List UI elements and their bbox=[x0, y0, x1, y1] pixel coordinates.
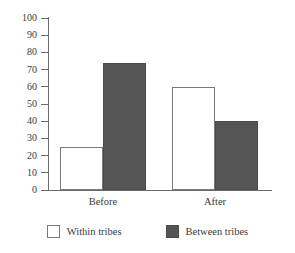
chart-legend: Within tribesBetween tribes bbox=[0, 225, 295, 238]
y-axis-tick bbox=[41, 121, 48, 122]
y-axis-tick-label: 30 bbox=[27, 133, 37, 143]
bar-chart: 0102030405060708090100 BeforeAfter Withi… bbox=[0, 0, 295, 253]
bar-after-between-tribes bbox=[215, 121, 258, 190]
y-axis-tick-label: 10 bbox=[27, 168, 37, 178]
y-axis-tick-label: 90 bbox=[27, 30, 37, 40]
bar-after-within-tribes bbox=[172, 87, 215, 190]
legend-item-between-tribes[interactable]: Between tribes bbox=[166, 225, 249, 238]
y-axis-tick bbox=[41, 104, 48, 105]
y-axis-tick bbox=[41, 52, 48, 53]
legend-label: Within tribes bbox=[67, 226, 122, 238]
y-axis-tick-label: 80 bbox=[27, 47, 37, 57]
x-axis-label-after: After bbox=[175, 196, 255, 208]
y-axis-tick bbox=[41, 86, 48, 87]
y-axis-tick-label: 40 bbox=[27, 116, 37, 126]
y-axis-tick-label: 50 bbox=[27, 99, 37, 109]
y-axis-tick bbox=[41, 190, 48, 191]
y-axis-tick-label: 0 bbox=[32, 185, 37, 195]
legend-label: Between tribes bbox=[186, 226, 249, 238]
bar-before-between-tribes bbox=[103, 63, 146, 190]
y-axis-tick bbox=[41, 172, 48, 173]
y-axis-tick bbox=[41, 35, 48, 36]
y-axis-tick-label: 70 bbox=[27, 65, 37, 75]
y-axis-tick bbox=[41, 18, 48, 19]
plot-area bbox=[48, 18, 272, 190]
y-axis-tick-label: 20 bbox=[27, 151, 37, 161]
legend-swatch-light bbox=[47, 225, 60, 238]
y-axis-tick bbox=[41, 69, 48, 70]
y-axis-tick-label: 60 bbox=[27, 82, 37, 92]
y-axis-tick bbox=[41, 138, 48, 139]
legend-item-within-tribes[interactable]: Within tribes bbox=[47, 225, 122, 238]
x-axis-label-before: Before bbox=[63, 196, 143, 208]
y-axis-tick-label: 100 bbox=[22, 13, 37, 23]
bar-before-within-tribes bbox=[60, 147, 103, 190]
legend-swatch-dark bbox=[166, 225, 179, 238]
x-axis-line bbox=[48, 190, 272, 191]
y-axis-tick bbox=[41, 155, 48, 156]
